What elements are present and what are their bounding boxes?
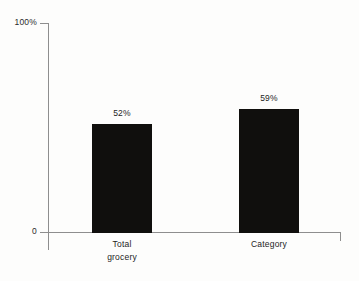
category-label-line-1: Total <box>67 238 177 251</box>
y-axis-tick-label-min: 0 <box>32 226 37 236</box>
bar-value-label-category: 59% <box>239 93 299 103</box>
x-axis-end-tick <box>340 232 341 241</box>
x-axis-category-label-category: Category <box>214 238 324 251</box>
bar-chart: 100% 0 52% 59% Total grocery Category <box>0 0 359 281</box>
category-label-line-2: grocery <box>67 251 177 264</box>
y-axis-tick-100 <box>40 23 49 24</box>
category-label-line-1: Category <box>214 238 324 251</box>
y-axis-tick-label-max: 100% <box>14 17 37 27</box>
y-axis-tick-0 <box>40 232 49 233</box>
bar-total-grocery <box>92 124 152 233</box>
x-axis-category-label-total-grocery: Total grocery <box>67 238 177 263</box>
bar-category <box>239 109 299 233</box>
bar-value-label-total-grocery: 52% <box>92 108 152 118</box>
y-axis-line <box>48 23 49 250</box>
